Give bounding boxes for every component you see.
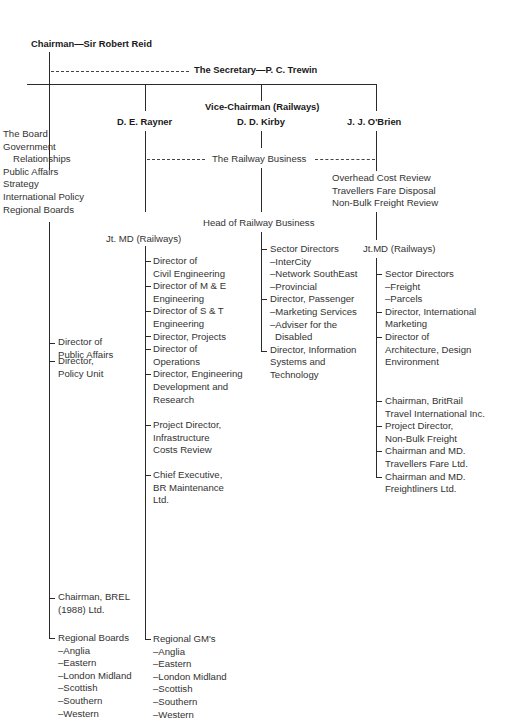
branch-tick [50, 343, 55, 344]
branch-tick [50, 361, 55, 362]
obrien-role: Jt.MD (Railways) [363, 243, 436, 256]
obrien-name: J. J. O'Brien [347, 116, 401, 129]
obrien-mid-line [376, 212, 377, 240]
rayner-report-br-maintenance: Chief Executive, BR Maintenance Ltd. [153, 469, 224, 507]
function-item: International Policy [3, 191, 84, 204]
branch-tick [146, 475, 151, 476]
function-item: Relationships [3, 153, 84, 166]
chairman-report-policy-unit: Director, Policy Unit [58, 355, 103, 380]
branch-corner [261, 351, 267, 352]
branch-tick [146, 374, 151, 375]
branch-corner [376, 477, 382, 478]
obrien-upper-line [376, 131, 377, 171]
function-item: Strategy [3, 178, 84, 191]
railway-business-dash-right [315, 159, 375, 160]
branch-tick [377, 337, 382, 338]
railway-business-label: The Railway Business [212, 153, 306, 166]
rayner-trunk-line [145, 246, 146, 640]
branch-tick [262, 249, 267, 250]
chairman-report-regional-boards: Regional Boards –Anglia –Eastern –London… [58, 632, 132, 720]
branch-tick [146, 349, 151, 350]
chairman-trunk-line [49, 222, 50, 639]
secretary-label: The Secretary—P. C. Trewin [194, 64, 317, 77]
branch-tick [262, 299, 267, 300]
obrien-drop-line [376, 85, 377, 111]
branch-tick [377, 426, 382, 427]
kirby-reports: Sector Directors –InterCity –Network Sou… [270, 243, 357, 382]
secretary-dashed-link [51, 71, 189, 72]
chairman-functions: The Board Government Relationships Publi… [3, 128, 84, 216]
branch-tick [377, 312, 382, 313]
branch-tick [146, 425, 151, 426]
obrien-trunk-line [376, 258, 377, 478]
branch-tick [377, 401, 382, 402]
branch-tick [50, 598, 55, 599]
branch-tick [377, 451, 382, 452]
branch-tick [146, 286, 151, 287]
rayner-role: Jt. MD (Railways) [106, 233, 181, 246]
function-item: Government [3, 141, 84, 154]
function-item: Public Affairs [3, 166, 84, 179]
obrien-reports-lower: Chairman, BritRail Travel International … [385, 395, 485, 496]
kirby-drop-line [261, 85, 262, 101]
railway-business-dash-left [147, 159, 205, 160]
rayner-report-regional-gms: Regional GM's –Anglia –Eastern –London M… [153, 633, 227, 721]
kirby-role: Head of Railway Business [203, 217, 314, 230]
branch-corner [49, 638, 55, 639]
chairman-report-brel: Chairman, BREL (1988) Ltd. [58, 591, 130, 616]
function-item: Regional Boards [3, 204, 84, 217]
branch-tick [377, 274, 382, 275]
branch-tick [146, 311, 151, 312]
rayner-upper-line [145, 131, 146, 212]
rayner-report: Director of Civil Engineering Director o… [153, 255, 243, 406]
chairman-label: Chairman—Sir Robert Reid [31, 38, 152, 51]
function-item: The Board [3, 128, 84, 141]
obrien-functions: Overhead Cost Review Travellers Fare Dis… [332, 172, 438, 210]
rayner-name: D. E. Rayner [117, 116, 172, 129]
kirby-mid-line [261, 168, 262, 212]
kirby-name: D. D. Kirby [237, 116, 285, 129]
obrien-reports: Sector Directors –Freight –Parcels Direc… [385, 268, 476, 369]
main-horizontal-line [27, 84, 377, 85]
branch-tick [146, 261, 151, 262]
kirby-upper-line [261, 131, 262, 148]
rayner-report-infrastructure: Project Director, Infrastructure Costs R… [153, 419, 221, 457]
branch-corner [145, 639, 151, 640]
kirby-title: Vice-Chairman (Railways) [205, 101, 319, 114]
rayner-drop-line [145, 85, 146, 111]
branch-tick [146, 336, 151, 337]
